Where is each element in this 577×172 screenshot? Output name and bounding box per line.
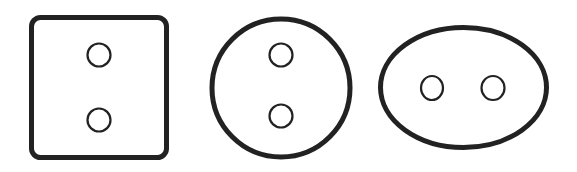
square-shape [32,18,167,158]
plug-shapes-figure [0,0,577,172]
circle-hole-bottom [270,105,293,128]
oval-shape [381,28,547,148]
circle-hole-top [270,44,293,67]
oval-hole-right [482,76,505,100]
square-hole-bottom [88,109,111,132]
circle-shape [212,19,350,157]
square-outline [32,18,167,158]
diagram-canvas: Square plug face Round plug face Oval pl… [0,0,577,172]
oval-hole-left [421,76,443,100]
square-hole-top [88,44,111,67]
oval-outline [381,28,547,148]
circle-outline [212,19,350,157]
